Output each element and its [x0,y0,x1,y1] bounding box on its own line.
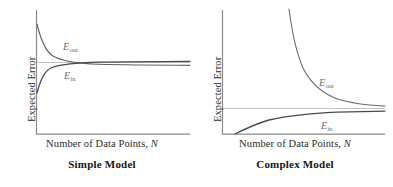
x-axis-label-simple: Number of Data Points, N [14,138,190,149]
x-axis-label-variable: N [151,138,158,149]
panel-caption-simple: Simple Model [14,158,190,170]
y-axis-label-complex: Expected Error [212,57,223,122]
curve-label-eout-sub: out [325,82,333,89]
x-axis-label-complex: Number of Data Points, N [205,138,385,149]
curve-eout [289,9,385,106]
curve-label-ein-complex: Ein [321,120,332,131]
curve-label-eout-simple: Eout [63,41,78,52]
curve-label-eout-complex: Eout [319,77,334,88]
curve-label-ein-sub: in [327,125,332,132]
curve-ein [37,61,190,93]
x-axis-label-variable: N [344,138,351,149]
curve-label-eout-sub: out [69,46,77,53]
curve-label-ein-sub: in [70,75,75,82]
curve-eout [37,24,190,65]
panel-simple-model: Expected Error Eout Ein Number of Data P… [0,0,196,187]
curve-label-ein-simple: Ein [64,70,75,81]
panel-complex-model: Expected Error Eout Ein Number of Data P… [197,0,393,187]
curve-ein [235,111,385,134]
panel-caption-complex: Complex Model [205,158,385,170]
x-axis-label-text: Number of Data Points, [239,138,341,149]
learning-curves-figure: Expected Error Eout Ein Number of Data P… [0,0,393,187]
x-axis-label-text: Number of Data Points, [46,138,148,149]
y-axis-label-simple: Expected Error [26,57,37,122]
